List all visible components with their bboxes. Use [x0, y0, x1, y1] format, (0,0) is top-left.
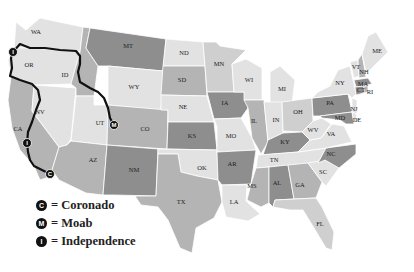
state-label-ks: KS	[188, 132, 197, 139]
state-label-il: IL	[251, 117, 257, 124]
state-label-me: ME	[372, 47, 382, 54]
state-label-pa: PA	[326, 99, 334, 106]
state-label-sc: SC	[319, 168, 327, 175]
legend-label: = Moab	[51, 216, 93, 231]
independence-start-marker-icon: I	[9, 48, 18, 57]
state-label-sd: SD	[178, 76, 187, 83]
coronado-marker-icon: C	[46, 170, 55, 179]
legend: C = Coronado M = Moab I = Independence	[36, 196, 136, 250]
state-label-nh: NH	[359, 68, 369, 75]
state-label-wv: WV	[308, 126, 319, 133]
state-label-mt: MT	[123, 42, 133, 49]
state-label-tn: TN	[270, 156, 279, 163]
state-label-de: DE	[353, 116, 362, 123]
state-label-va: VA	[327, 130, 336, 137]
state-label-ut: UT	[96, 119, 105, 126]
state-az	[52, 141, 107, 195]
state-mt	[86, 28, 166, 71]
state-label-nj: NJ	[350, 105, 358, 112]
independence-2-marker-icon: I	[23, 139, 32, 148]
state-label-oh: OH	[293, 108, 303, 115]
state-label-nv: NV	[35, 108, 45, 115]
state-label-ar: AR	[227, 160, 237, 167]
state-label-nm: NM	[129, 166, 140, 173]
state-label-ca: CA	[13, 125, 22, 132]
state-label-ms: MS	[247, 182, 257, 189]
coronado-marker-icon: C	[36, 200, 47, 211]
moab-marker-icon: M	[36, 218, 47, 229]
state-label-ia: IA	[222, 99, 229, 106]
state-label-ky: KY	[280, 138, 290, 145]
state-label-al: AL	[273, 179, 282, 186]
state-ar	[217, 150, 256, 185]
state-label-ct: CT	[357, 86, 365, 93]
state-label-mn: MN	[214, 60, 225, 67]
state-label-ny: NY	[335, 79, 345, 86]
state-label-nc: NC	[326, 150, 335, 157]
state-ne	[161, 95, 214, 122]
state-label-nd: ND	[179, 49, 189, 56]
state-label-ok: OK	[197, 164, 207, 171]
state-label-fl: FL	[316, 220, 324, 227]
legend-label: = Independence	[51, 234, 136, 249]
state-label-mi: MI	[278, 85, 286, 92]
state-label-md: MD	[335, 114, 346, 121]
legend-item-moab: M = Moab	[36, 214, 136, 232]
svg-text:C: C	[48, 171, 53, 177]
state-label-in: IN	[273, 116, 280, 123]
state-label-co: CO	[140, 125, 149, 132]
state-label-ma: MA	[358, 80, 369, 87]
state-label-ri: RI	[367, 88, 374, 95]
legend-item-independence: I = Independence	[36, 232, 136, 250]
state-label-wy: WY	[129, 83, 140, 90]
state-label-az: AZ	[89, 156, 98, 163]
state-fl	[273, 198, 334, 250]
state-label-wi: WI	[245, 76, 253, 83]
state-ny	[312, 66, 356, 98]
state-label-or: OR	[24, 61, 34, 68]
state-label-wa: WA	[31, 28, 41, 35]
state-label-id: ID	[62, 71, 69, 78]
moab-marker-icon: M	[110, 121, 119, 130]
state-label-mo: MO	[226, 132, 237, 139]
independence-marker-icon: I	[36, 236, 47, 247]
state-label-la: LA	[230, 198, 239, 205]
svg-text:M: M	[112, 122, 117, 128]
state-label-tx: TX	[177, 198, 186, 205]
legend-label: = Coronado	[51, 198, 115, 213]
state-label-ga: GA	[295, 181, 305, 188]
legend-item-coronado: C = Coronado	[36, 196, 136, 214]
state-label-ne: NE	[179, 103, 188, 110]
